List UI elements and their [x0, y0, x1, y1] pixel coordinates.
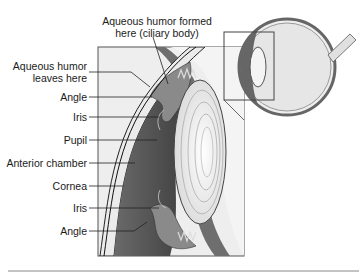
- cross-section-box: [98, 47, 244, 256]
- label-angle-top: Angle: [0, 91, 87, 103]
- label-aqueous-formed: Aqueous humor formed here (ciliary body): [96, 15, 218, 39]
- label-aqueous-leaves: Aqueous humor leaves here: [0, 60, 87, 84]
- label-pupil: Pupil: [0, 134, 87, 146]
- label-formed-line1: Aqueous humor formed: [96, 15, 218, 27]
- lens: [174, 80, 226, 224]
- label-iris-bottom: Iris: [0, 202, 87, 214]
- label-iris-top: Iris: [0, 111, 87, 123]
- label-angle-bottom: Angle: [0, 225, 87, 237]
- label-anterior-chamber: Anterior chamber: [0, 157, 87, 169]
- label-leaves-line1: Aqueous humor: [0, 60, 87, 72]
- label-formed-line2: here (ciliary body): [96, 27, 218, 39]
- label-leaves-line2: leaves here: [0, 72, 87, 84]
- label-cornea: Cornea: [0, 180, 87, 192]
